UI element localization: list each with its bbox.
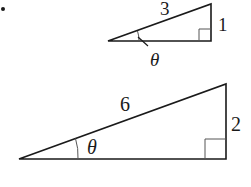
small-opposite-label: 1 bbox=[218, 14, 228, 35]
large-hypotenuse-label: 6 bbox=[120, 93, 130, 115]
small-angle-arc bbox=[138, 31, 140, 41]
large-triangle: 6 2 θ bbox=[19, 84, 241, 159]
small-right-angle-marker bbox=[199, 29, 211, 41]
large-right-angle-marker bbox=[205, 139, 226, 159]
large-angle-arc bbox=[76, 139, 79, 160]
small-triangle: 3 1 θ bbox=[108, 0, 228, 70]
small-angle-label: θ bbox=[150, 49, 159, 70]
large-opposite-label: 2 bbox=[231, 113, 241, 135]
bullet-dot bbox=[1, 7, 5, 11]
large-angle-label: θ bbox=[87, 136, 97, 158]
diagram-canvas: 3 1 θ 6 2 θ bbox=[0, 0, 251, 187]
small-hypotenuse-label: 3 bbox=[160, 0, 170, 19]
